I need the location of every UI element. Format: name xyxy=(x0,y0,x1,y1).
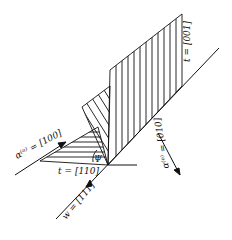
label-t-110: t = [110] xyxy=(58,166,100,176)
axes xyxy=(15,48,219,219)
plane-001-hatched xyxy=(108,0,182,240)
plane-middle-hatched xyxy=(64,70,150,174)
label-w-111: w = [111] xyxy=(60,180,97,221)
alpha-e-arrow-icon xyxy=(174,168,180,175)
crystal-plane-diagram: t = [001] α⁽ᵃ⁾ = [100] Ψ t = [110] α⁽ᵉ⁾ … xyxy=(0,0,232,240)
label-alpha-e: α⁽ᵉ⁾ = [010] xyxy=(152,117,171,170)
label-alpha-a: α⁽ᵃ⁾ = [100] xyxy=(13,128,63,161)
label-t-001: t = [001] xyxy=(182,20,192,62)
label-psi: Ψ xyxy=(94,154,103,164)
